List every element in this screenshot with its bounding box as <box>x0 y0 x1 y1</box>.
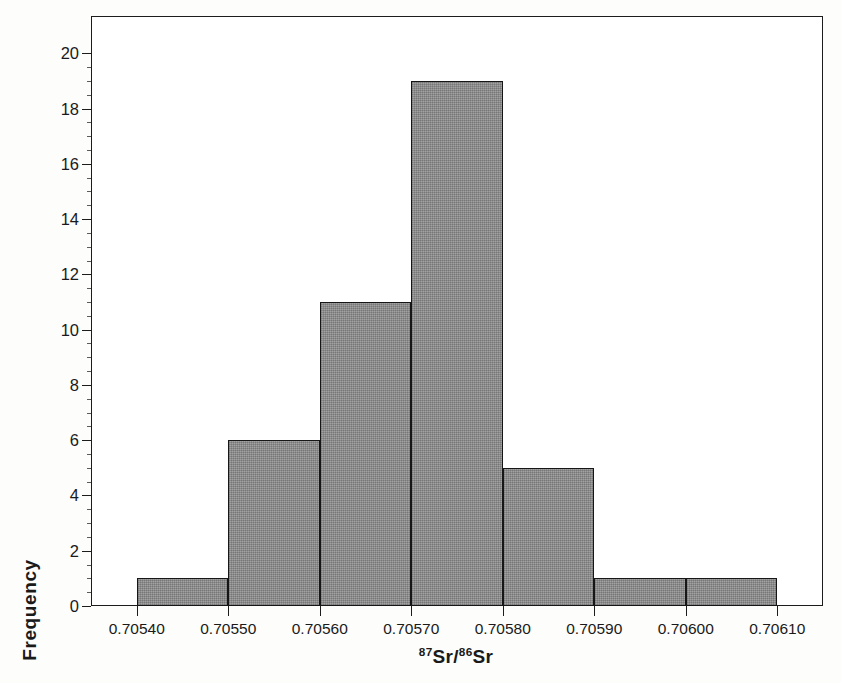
x-axis-tick <box>777 606 778 616</box>
x-axis-tick <box>411 606 412 616</box>
y-axis-minor-tick <box>87 191 91 192</box>
x-axis-tick <box>320 606 321 616</box>
x-axis-tick-label: 0.70540 <box>109 620 165 638</box>
y-axis-title-wrap: Frequency <box>24 300 25 301</box>
y-axis-minor-tick <box>87 537 91 538</box>
y-axis-minor-tick <box>87 399 91 400</box>
x-axis-title-sup-86: 86 <box>459 645 473 658</box>
x-axis-title-sup-87: 87 <box>419 645 433 658</box>
y-axis-minor-tick <box>87 482 91 483</box>
y-axis-tick-label: 0 <box>70 597 79 616</box>
y-axis-minor-tick <box>87 565 91 566</box>
y-axis-minor-tick <box>87 302 91 303</box>
y-axis-minor-tick <box>87 122 91 123</box>
y-axis-minor-tick <box>87 150 91 151</box>
y-axis-minor-tick <box>87 95 91 96</box>
x-axis-tick-label: 0.70590 <box>566 620 622 638</box>
y-axis-minor-tick <box>87 343 91 344</box>
y-axis-minor-tick <box>87 357 91 358</box>
y-axis-title: Frequency <box>19 559 41 661</box>
y-axis-minor-tick <box>87 413 91 414</box>
y-axis-tick-label: 10 <box>61 320 79 339</box>
y-axis-minor-tick <box>87 178 91 179</box>
y-axis-tick-label: 8 <box>70 375 79 394</box>
y-axis-minor-tick <box>87 509 91 510</box>
y-axis-tick-label: 16 <box>61 154 79 173</box>
x-axis-tick <box>137 606 138 616</box>
x-axis-tick-label: 0.70580 <box>475 620 531 638</box>
histogram-bar <box>594 578 686 606</box>
y-axis-minor-tick <box>87 136 91 137</box>
y-axis-tick <box>82 219 91 220</box>
histogram-bar <box>320 302 412 606</box>
x-axis-tick <box>503 606 504 616</box>
y-axis-tick <box>82 53 91 54</box>
x-axis-title-base-1: Sr/ <box>433 646 459 667</box>
x-axis-tick-label: 0.70560 <box>292 620 348 638</box>
y-axis-tick-label: 20 <box>61 44 79 63</box>
y-axis-tick <box>82 385 91 386</box>
y-axis-minor-tick <box>87 523 91 524</box>
y-axis-tick <box>82 440 91 441</box>
histogram-bar <box>137 578 229 606</box>
y-axis-tick <box>82 164 91 165</box>
y-axis-tick-label: 6 <box>70 431 79 450</box>
y-axis-tick <box>82 606 91 607</box>
y-axis-tick-label: 2 <box>70 541 79 560</box>
y-axis-minor-tick <box>87 371 91 372</box>
y-axis-minor-tick <box>87 81 91 82</box>
y-axis-tick <box>82 551 91 552</box>
x-axis-tick-label: 0.70550 <box>200 620 256 638</box>
y-axis-tick-label: 14 <box>61 210 79 229</box>
histogram-bars <box>91 16 823 606</box>
x-axis-tick <box>594 606 595 616</box>
histogram-bar <box>228 440 320 606</box>
x-axis-tick <box>228 606 229 616</box>
y-axis-minor-tick <box>87 468 91 469</box>
histogram-bar <box>686 578 778 606</box>
x-axis-tick-label: 0.70600 <box>658 620 714 638</box>
histogram-bar <box>411 81 503 606</box>
y-axis-minor-tick <box>87 247 91 248</box>
y-axis-minor-tick <box>87 316 91 317</box>
y-axis-tick <box>82 109 91 110</box>
y-axis-minor-tick <box>87 233 91 234</box>
x-axis-tick-label: 0.70610 <box>749 620 805 638</box>
y-axis-minor-tick <box>87 261 91 262</box>
y-axis: 02468101214161820 <box>91 16 92 606</box>
y-axis-tick-label: 12 <box>61 265 79 284</box>
y-axis-minor-tick <box>87 426 91 427</box>
figure-canvas: 02468101214161820 0.705400.705500.705600… <box>0 0 841 683</box>
y-axis-minor-tick <box>87 67 91 68</box>
y-axis-minor-tick <box>87 288 91 289</box>
y-axis-tick <box>82 274 91 275</box>
y-axis-minor-tick <box>87 454 91 455</box>
histogram-bar <box>503 468 595 606</box>
y-axis-minor-tick <box>87 578 91 579</box>
y-axis-tick <box>82 495 91 496</box>
y-axis-tick-label: 4 <box>70 486 79 505</box>
y-axis-tick-label: 18 <box>61 99 79 118</box>
y-axis-minor-tick <box>87 592 91 593</box>
x-axis-title: 87Sr/86Sr <box>419 645 493 668</box>
y-axis-tick <box>82 330 91 331</box>
x-axis-title-base-2: Sr <box>472 646 493 667</box>
y-axis-minor-tick <box>87 205 91 206</box>
x-axis: 0.705400.705500.705600.705700.705800.705… <box>91 606 823 607</box>
x-axis-tick-label: 0.70570 <box>383 620 439 638</box>
x-axis-tick <box>686 606 687 616</box>
